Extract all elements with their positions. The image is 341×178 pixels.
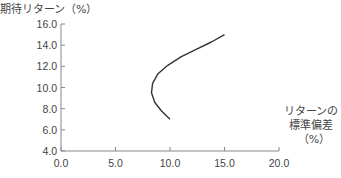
y-tick-label: 12.0 — [37, 60, 58, 72]
y-tick-label: 16.0 — [37, 18, 58, 30]
y-tick-label: 8.0 — [42, 103, 57, 115]
svg-text:リターンの: リターンの — [284, 105, 338, 118]
y-tick-label: 6.0 — [42, 124, 57, 136]
axes: 4.06.08.010.012.014.016.00.05.010.015.02… — [37, 18, 290, 169]
y-axis-label: 期待リターン（%） — [0, 2, 97, 16]
svg-text:標準偏差: 標準偏差 — [289, 118, 333, 132]
x-tick-label: 10.0 — [160, 157, 181, 169]
y-tick-label: 10.0 — [37, 82, 58, 94]
x-tick-label: 0.0 — [54, 157, 69, 169]
svg-text:（%）: （%） — [298, 133, 330, 146]
y-tick-label: 14.0 — [37, 39, 58, 51]
frontier-curve — [152, 35, 225, 120]
x-axis-label: リターンの標準偏差（%） — [284, 105, 338, 146]
y-tick-label: 4.0 — [42, 145, 57, 157]
x-tick-label: 20.0 — [269, 157, 290, 169]
efficient-frontier-chart: 期待リターン（%） 4.06.08.010.012.014.016.00.05.… — [0, 0, 341, 178]
x-tick-label: 15.0 — [214, 157, 235, 169]
x-tick-label: 5.0 — [108, 157, 123, 169]
